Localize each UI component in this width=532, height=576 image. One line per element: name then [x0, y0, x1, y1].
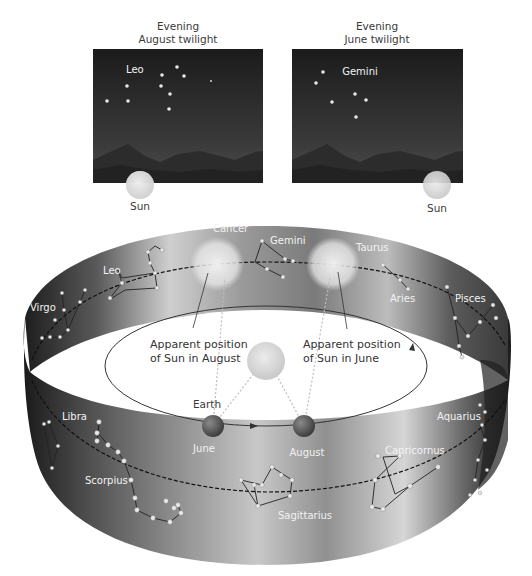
earth-august-icon — [293, 415, 315, 437]
apparent-august-line1: Apparent position — [150, 338, 248, 351]
august-panel-constellation: Leo — [126, 64, 144, 75]
august-panel-title-line2: August twilight — [139, 33, 218, 45]
sun-apparent-august-icon — [190, 237, 244, 291]
june-setting-sun-icon — [423, 171, 451, 199]
label-cancer: Cancer — [213, 223, 249, 234]
earth-label: Earth — [193, 398, 221, 410]
apparent-august-line2: of Sun in August — [150, 352, 241, 365]
label-sagittarius: Sagittarius — [278, 510, 332, 521]
sun-icon — [247, 342, 285, 380]
label-pisces: Pisces — [455, 293, 486, 304]
label-scorpius: Scorpius — [85, 475, 128, 486]
label-leo: Leo — [103, 265, 121, 276]
june-panel-constellation: Gemini — [342, 66, 378, 77]
august-sun-label: Sun — [130, 200, 150, 212]
june-label: June — [192, 443, 215, 454]
label-aries: Aries — [390, 293, 415, 304]
label-capricornus: Capricornus — [385, 445, 445, 456]
label-taurus: Taurus — [355, 242, 389, 253]
apparent-june-line1: Apparent position — [303, 338, 401, 351]
june-sun-label: Sun — [427, 202, 447, 214]
label-libra: Libra — [62, 411, 87, 422]
june-panel-title-line2: June twilight — [343, 33, 409, 45]
sun-apparent-june-icon — [306, 237, 360, 291]
june-twilight-panel: Evening June twilight Gemini Sun — [292, 20, 463, 214]
earth-june-icon — [202, 415, 224, 437]
zodiac-diagram: Evening August twilight Leo Sun Evening … — [0, 0, 532, 576]
apparent-june-line2: of Sun in June — [303, 352, 379, 365]
august-panel-title-line1: Evening — [157, 20, 199, 32]
label-virgo: Virgo — [30, 302, 56, 313]
august-label: August — [290, 447, 325, 458]
june-panel-title-line1: Evening — [356, 20, 398, 32]
label-gemini: Gemini — [270, 235, 306, 246]
label-aquarius: Aquarius — [437, 411, 481, 422]
august-twilight-panel: Evening August twilight Leo Sun — [93, 20, 263, 212]
